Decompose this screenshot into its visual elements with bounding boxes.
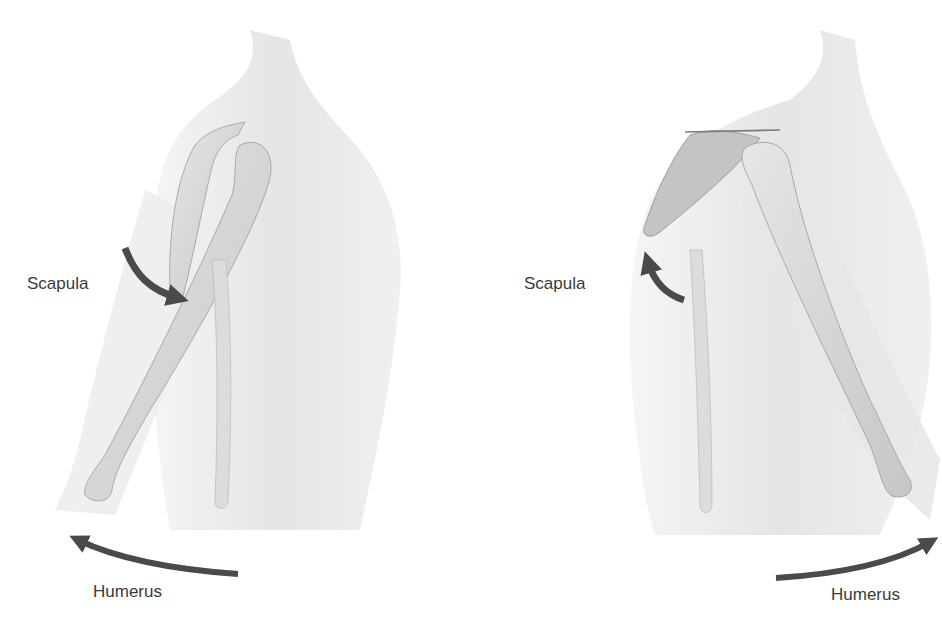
right-panel: Scapula Humerus xyxy=(471,0,942,631)
right-humerus-label: Humerus xyxy=(831,585,900,605)
left-humerus-label: Humerus xyxy=(93,582,162,602)
left-panel: Scapula Humerus xyxy=(0,0,471,631)
right-scapula-label: Scapula xyxy=(524,274,585,294)
left-scapula-label: Scapula xyxy=(27,274,88,294)
